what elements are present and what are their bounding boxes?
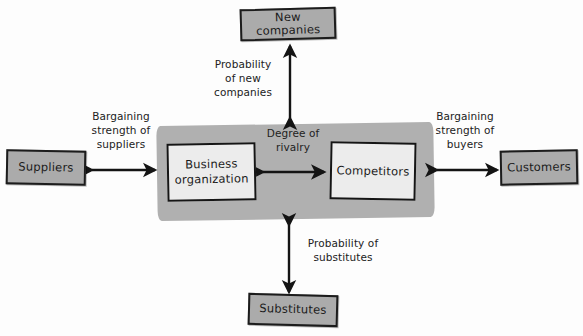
label-probability-of-new-companies: Probability of new companies — [205, 58, 281, 100]
node-customers[interactable]: Customers — [500, 149, 579, 185]
label-probability-of-substitutes: Probability of substitutes — [297, 237, 389, 265]
node-substitutes[interactable]: Substitutes — [248, 293, 339, 327]
node-business-organization[interactable]: Business organization — [166, 142, 256, 202]
node-competitors[interactable]: Competitors — [329, 141, 416, 201]
label-degree-of-rivalry: Degree of rivalry — [255, 127, 331, 155]
node-suppliers[interactable]: Suppliers — [6, 149, 87, 186]
node-new-companies[interactable]: New companies — [240, 7, 337, 42]
label-bargaining-strength-of-suppliers: Bargaining strength of suppliers — [83, 110, 159, 152]
label-bargaining-strength-of-buyers: Bargaining strength of buyers — [427, 110, 503, 152]
porters-five-forces-diagram: New companies Suppliers Customers Substi… — [0, 0, 583, 336]
